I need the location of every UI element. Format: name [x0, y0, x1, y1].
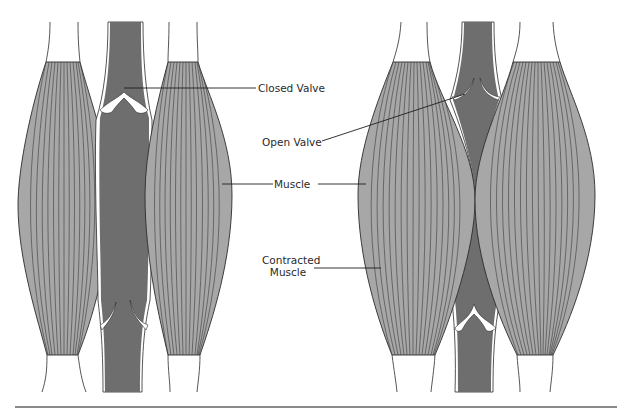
label-closed-valve: Closed Valve — [258, 82, 325, 94]
bottom-divider — [15, 406, 617, 408]
panel-relaxed — [18, 22, 232, 392]
label-contracted-muscle: Contracted Muscle — [262, 254, 314, 278]
label-contracted-line2: Muscle — [262, 266, 314, 278]
right-muscle — [145, 62, 232, 355]
muscle-pump-diagram — [0, 0, 617, 413]
vein-relaxed — [95, 22, 152, 392]
label-open-valve: Open Valve — [262, 136, 322, 148]
label-muscle: Muscle — [274, 178, 310, 190]
label-contracted-line1: Contracted — [262, 254, 314, 266]
panel-contracted — [358, 22, 595, 392]
